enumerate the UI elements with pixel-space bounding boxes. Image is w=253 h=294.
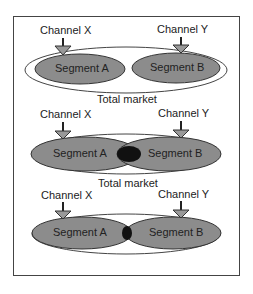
channel-x-label: Channel X (40, 24, 91, 36)
channel-y-label: Channel Y (158, 107, 209, 119)
segment-b-label: Segment B (149, 226, 203, 238)
channel-y-arrow-icon (173, 121, 189, 138)
channel-x-arrow-icon (55, 202, 71, 219)
channel-y-label: Channel Y (158, 188, 209, 200)
channel-y-arrow-icon (173, 201, 189, 218)
market-segments-diagram (0, 0, 253, 294)
segment-a-label: Segment A (53, 147, 107, 159)
channel-x-label: Channel X (41, 189, 92, 201)
channel-y-label: Channel Y (157, 23, 208, 35)
overlap-region (122, 226, 132, 240)
segment-b-label: Segment B (150, 61, 204, 73)
segment-a-label: Segment A (55, 62, 109, 74)
channel-x-label: Channel X (40, 108, 91, 120)
overlap-region (117, 146, 141, 162)
segment-a-label: Segment A (53, 226, 107, 238)
channel-x-arrow-icon (55, 122, 71, 139)
segment-b-label: Segment B (148, 147, 202, 159)
total-market-caption: Total market (98, 177, 158, 189)
total-market-caption: Total market (97, 93, 157, 105)
